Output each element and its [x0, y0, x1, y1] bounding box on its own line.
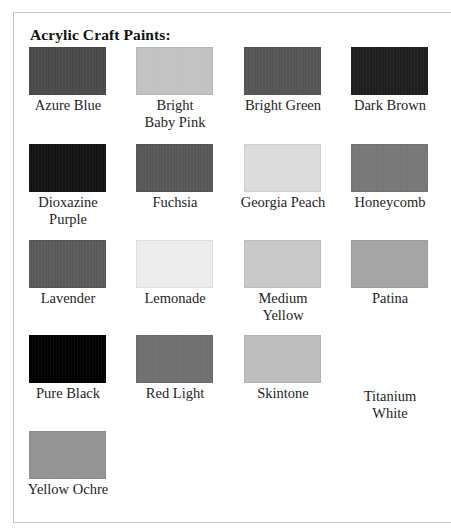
paint-label: Dioxazine Purple	[14, 194, 122, 228]
paint-swatch-grid: Azure Blue Bright Baby Pink Bright Green…	[0, 0, 451, 531]
color-swatch	[29, 240, 106, 288]
paint-label: Lavender	[14, 290, 122, 307]
paint-label: Bright Baby Pink	[121, 97, 229, 131]
paint-label: Medium Yellow	[229, 290, 337, 324]
color-swatch	[136, 240, 213, 288]
color-swatch	[351, 144, 428, 192]
paint-label: Titanium White	[336, 388, 444, 422]
color-swatch	[351, 240, 428, 288]
paint-label: Lemonade	[121, 290, 229, 307]
color-swatch	[136, 144, 213, 192]
color-swatch	[351, 47, 428, 95]
paint-label: Honeycomb	[336, 194, 444, 211]
paint-label: Patina	[336, 290, 444, 307]
color-swatch	[136, 47, 213, 95]
color-swatch	[29, 431, 106, 479]
color-swatch	[29, 144, 106, 192]
paint-label: Skintone	[229, 385, 337, 402]
color-swatch	[29, 47, 106, 95]
paint-label: Fuchsia	[121, 194, 229, 211]
color-swatch	[244, 144, 321, 192]
paint-label: Dark Brown	[336, 97, 444, 114]
paint-label: Georgia Peach	[229, 194, 337, 211]
color-swatch	[244, 335, 321, 383]
paint-label: Azure Blue	[14, 97, 122, 114]
paint-label: Pure Black	[14, 385, 122, 402]
color-swatch	[29, 335, 106, 383]
color-swatch	[244, 240, 321, 288]
color-swatch	[136, 335, 213, 383]
paint-label: Yellow Ochre	[14, 481, 122, 498]
color-swatch	[351, 335, 428, 383]
color-swatch	[244, 47, 321, 95]
paint-label: Red Light	[121, 385, 229, 402]
paint-label: Bright Green	[229, 97, 337, 114]
